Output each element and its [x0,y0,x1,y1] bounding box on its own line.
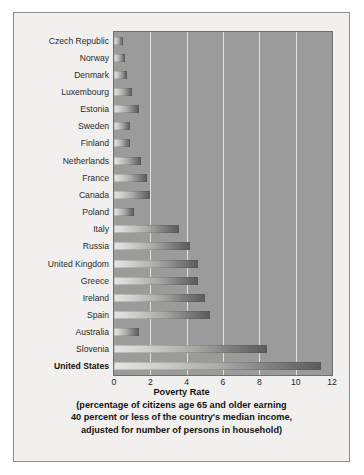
bar-ireland [114,294,205,302]
bar-canada [114,191,150,199]
bar-russia [114,242,190,250]
bar-united-kingdom [114,260,198,268]
category-label-canada: Canada [79,191,109,200]
bar-greece [114,277,198,285]
category-label-australia: Australia [76,328,109,337]
category-label-norway: Norway [80,53,109,62]
category-label-russia: Russia [83,242,109,251]
bar-finland [114,139,130,147]
category-label-spain: Spain [87,311,109,320]
bar-netherlands [114,157,141,165]
category-label-greece: Greece [81,276,109,285]
plot-area: Czech RepublicNorwayDenmarkLuxembourgEst… [113,31,333,376]
gridline-2 [150,32,151,375]
category-label-france: France [82,173,109,182]
bar-norway [114,54,125,62]
bar-czech-republic [114,37,123,45]
caption-line-2: 40 percent or less of the country's medi… [20,411,343,423]
bar-france [114,174,147,182]
category-label-united-states: United States [54,362,109,371]
bar-united-states [114,362,321,370]
category-label-italy: Italy [93,225,109,234]
caption-line-1: (percentage of citizens age 65 and older… [20,399,343,411]
bar-poland [114,208,134,216]
bar-spain [114,311,210,319]
gridline-6 [223,32,224,375]
category-label-denmark: Denmark [74,71,109,80]
category-label-ireland: Ireland [83,294,109,303]
bar-italy [114,225,179,233]
category-label-estonia: Estonia [80,105,109,114]
gridline-8 [259,32,260,375]
category-label-united-kingdom: United Kingdom [48,259,109,268]
bar-sweden [114,122,130,130]
category-label-czech-republic: Czech Republic [49,36,109,45]
chart-panel: Czech RepublicNorwayDenmarkLuxembourgEst… [13,12,350,462]
category-label-netherlands: Netherlands [63,156,109,165]
category-label-finland: Finland [81,139,109,148]
category-label-slovenia: Slovenia [76,345,109,354]
caption-line-3: adjusted for number of persons in househ… [20,424,343,436]
gridline-10 [296,32,297,375]
chart-caption: (percentage of citizens age 65 and older… [20,399,343,436]
poverty-rate-bar-chart-figure: Czech RepublicNorwayDenmarkLuxembourgEst… [0,0,364,475]
x-axis-label: Poverty Rate [14,386,349,398]
gridline-4 [187,32,188,375]
category-label-sweden: Sweden [78,122,109,131]
bar-australia [114,328,139,336]
bar-luxembourg [114,88,132,96]
category-label-luxembourg: Luxembourg [61,88,109,97]
bar-estonia [114,105,139,113]
bar-denmark [114,71,127,79]
bar-slovenia [114,345,267,353]
category-label-poland: Poland [82,208,109,217]
